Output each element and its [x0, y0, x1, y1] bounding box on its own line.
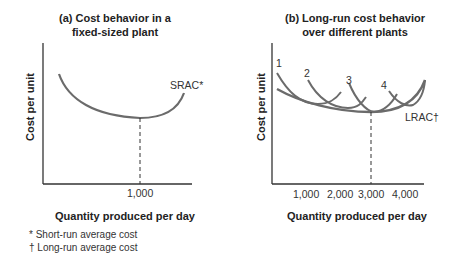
right-y-axis-label: Cost per unit	[255, 72, 267, 142]
right-tick-3000: 3,000	[358, 188, 384, 200]
left-tick-1000: 1,000	[127, 187, 153, 199]
lrac-label: LRAC†	[405, 111, 439, 123]
plant-1-label: 1	[276, 57, 282, 69]
right-tick-1000: 1,000	[293, 188, 319, 200]
footnote-lrac: † Long-run average cost	[29, 242, 137, 253]
right-tick-4000: 4,000	[392, 188, 418, 200]
plant-3-label: 3	[346, 74, 352, 86]
right-x-axis-label: Quantity produced per day	[287, 210, 427, 222]
plant-2-label: 2	[304, 67, 310, 79]
right-tick-2000: 2,000	[327, 188, 353, 200]
plant-3-curve	[349, 83, 397, 112]
right-axes	[272, 43, 424, 184]
left-y-axis-label: Cost per unit	[24, 72, 36, 142]
srac-label: SRAC*	[170, 79, 203, 91]
plant-4-label: 4	[381, 79, 387, 91]
footnote-srac: * Short-run average cost	[29, 229, 137, 240]
left-x-axis-label: Quantity produced per day	[55, 210, 195, 222]
left-axes	[43, 43, 192, 184]
srac-curve	[59, 74, 184, 118]
